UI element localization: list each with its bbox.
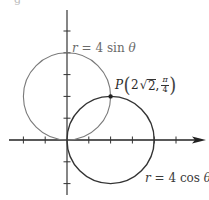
curves — [23, 53, 154, 184]
label-point-p: P ( 2√2, π 4 ) — [115, 76, 177, 94]
point-name: P — [115, 79, 123, 91]
label-r-4-cos-theta: r = 4 cos θ — [145, 172, 209, 184]
label-eq-cos: = 4 cos — [151, 171, 204, 185]
polar-intersection-diagram: g r = 4 sin θ P ( 2√2, π 4 ) r = 4 cos θ — [0, 0, 209, 200]
close-paren: ) — [169, 75, 176, 96]
label-r-4-sin-theta: r = 4 sin θ — [72, 42, 136, 54]
sqrt-icon: √ — [140, 79, 148, 91]
comma: , — [156, 79, 160, 91]
theta-fraction: π 4 — [161, 76, 168, 94]
label-theta: θ — [128, 41, 135, 55]
clipped-caption-fragment: g — [14, 0, 21, 6]
axes — [9, 10, 206, 195]
label-theta: θ — [204, 171, 209, 185]
open-paren: ( — [124, 75, 131, 96]
point-p-dot-icon — [108, 94, 112, 98]
r-coefficient: 2 — [131, 79, 139, 91]
r-radicand: 2 — [147, 79, 155, 92]
intersection-marker — [108, 94, 112, 98]
coordinate-plot — [0, 0, 209, 200]
label-eq-sin: = 4 sin — [78, 41, 129, 55]
fraction-denominator: 4 — [162, 86, 167, 95]
